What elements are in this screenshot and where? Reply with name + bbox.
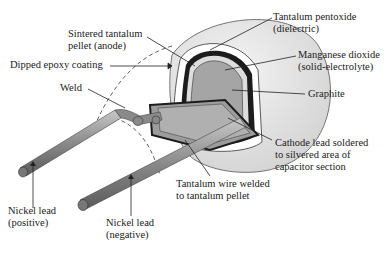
label-line: pellet (anode) bbox=[68, 40, 142, 52]
label-line: Tantalum pentoxide bbox=[273, 11, 357, 23]
label-line: (solid-electrolyte) bbox=[298, 61, 380, 73]
label-line: Manganese dioxide bbox=[298, 49, 380, 61]
label-line: Graphite bbox=[308, 88, 345, 100]
label-nickel-lead-negative: Nickel lead (negative) bbox=[106, 217, 154, 241]
label-tantalum-wire: Tantalum wire welded to tantalum pellet bbox=[176, 178, 270, 202]
label-line: Nickel lead bbox=[8, 205, 56, 217]
label-sintered-pellet: Sintered tantalum pellet (anode) bbox=[68, 28, 142, 52]
label-line: Dipped epoxy coating bbox=[10, 59, 103, 71]
label-line: Tantalum wire welded bbox=[176, 178, 270, 190]
label-line: (positive) bbox=[8, 217, 56, 229]
label-line: (dielectric) bbox=[273, 23, 357, 35]
label-line: Nickel lead bbox=[106, 217, 154, 229]
label-tantalum-pentoxide: Tantalum pentoxide (dielectric) bbox=[273, 11, 357, 35]
nickel-lead-positive bbox=[19, 109, 163, 177]
label-line: (negative) bbox=[106, 229, 154, 241]
label-line: Weld bbox=[60, 82, 82, 94]
label-line: to tantalum pellet bbox=[176, 190, 270, 202]
label-line: Cathode lead soldered bbox=[275, 137, 368, 149]
tantalum-capacitor-diagram bbox=[0, 0, 392, 256]
label-line: capacitor section bbox=[275, 161, 368, 173]
label-graphite: Graphite bbox=[308, 88, 345, 100]
label-nickel-lead-positive: Nickel lead (positive) bbox=[8, 205, 56, 229]
label-manganese-dioxide: Manganese dioxide (solid-electrolyte) bbox=[298, 49, 380, 73]
label-cathode-lead: Cathode lead soldered to silvered area o… bbox=[275, 137, 368, 173]
label-line: Sintered tantalum bbox=[68, 28, 142, 40]
label-line: to silvered area of bbox=[275, 149, 368, 161]
label-weld: Weld bbox=[60, 82, 82, 94]
label-epoxy-coating: Dipped epoxy coating bbox=[10, 59, 103, 71]
